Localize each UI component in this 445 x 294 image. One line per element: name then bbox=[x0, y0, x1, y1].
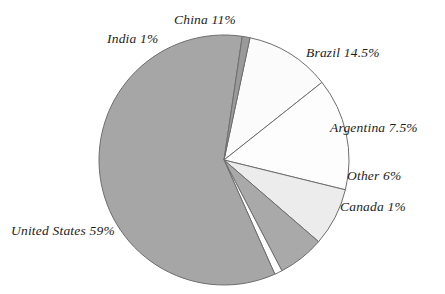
pie-slices-group bbox=[99, 35, 349, 285]
slice-label-argentina: Argentina 7.5% bbox=[330, 120, 418, 136]
slice-label-china: China 11% bbox=[174, 12, 236, 28]
pie-chart-figure: China 11% Brazil 14.5% Argentina 7.5% Ot… bbox=[0, 0, 445, 294]
slice-label-canada: Canada 1% bbox=[340, 199, 406, 215]
slice-label-united-states: United States 59% bbox=[11, 223, 115, 239]
slice-label-india: India 1% bbox=[107, 31, 158, 47]
slice-label-other: Other 6% bbox=[347, 168, 401, 184]
slice-label-brazil: Brazil 14.5% bbox=[306, 45, 380, 61]
